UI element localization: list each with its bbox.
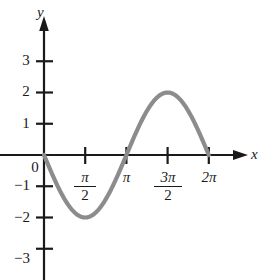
fraction-numerator: π xyxy=(74,170,96,185)
y-tick-label-minus-3: −3 xyxy=(11,251,33,266)
y-tick-label-minus-2: −2 xyxy=(11,210,33,225)
y-tick-label-minus-1: −1 xyxy=(11,178,33,193)
x-tick-label-2pi: 2π xyxy=(196,170,222,185)
fraction-denominator: 2 xyxy=(74,187,96,203)
y-axis-label: y xyxy=(37,5,44,20)
arrow-right-icon xyxy=(233,150,248,160)
y-tick-label-1: 1 xyxy=(19,116,33,131)
sine-curve-figure: y x 3 2 1 −1 −2 −3 0 π 2 π 3π 2 2π xyxy=(0,0,259,280)
x-tick-label-pi-over-2: π 2 xyxy=(74,170,96,203)
fraction-denominator: 2 xyxy=(154,187,182,203)
y-tick-label-2: 2 xyxy=(19,84,33,99)
x-axis-label: x xyxy=(251,147,258,162)
x-tick-label-pi: π xyxy=(118,170,135,185)
fraction-numerator: 3π xyxy=(154,170,182,185)
x-tick-label-3pi-over-2: 3π 2 xyxy=(154,170,182,203)
y-tick-label-3: 3 xyxy=(19,53,33,68)
plot-area xyxy=(0,0,259,280)
origin-label: 0 xyxy=(29,160,41,175)
